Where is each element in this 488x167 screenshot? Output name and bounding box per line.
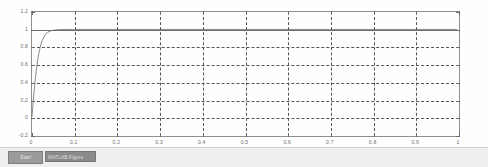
taskbar-item-figure[interactable]: MATLAB Figure	[45, 151, 96, 162]
plot-area	[31, 11, 460, 137]
x-axis-tick	[203, 11, 204, 15]
x-axis-tick	[246, 11, 247, 15]
x-axis-tick-label: 0.3	[155, 139, 163, 145]
y-axis-tick	[31, 101, 35, 102]
y-axis-tick-label: 0.4	[20, 79, 28, 85]
x-axis-tick	[160, 11, 161, 15]
x-axis-tick	[160, 133, 161, 137]
x-axis-tick	[246, 133, 247, 137]
y-axis-tick	[31, 83, 35, 84]
y-axis-tick-label: 0.2	[20, 97, 28, 103]
x-axis-tick-label: 0.1	[70, 139, 78, 145]
y-axis-tick-label: 0	[25, 114, 28, 120]
x-axis-tick-label: 0.5	[241, 139, 249, 145]
x-axis-tick	[203, 133, 204, 137]
y-axis-tick-label: 1	[25, 26, 28, 32]
x-axis-tick-label: 0.2	[113, 139, 121, 145]
x-axis-tick	[416, 11, 417, 15]
step-response-curve	[32, 12, 459, 136]
taskbar: Start MATLAB Figure	[0, 147, 488, 167]
x-axis-tick	[288, 11, 289, 15]
y-axis-tick	[31, 47, 35, 48]
x-axis-tick	[288, 133, 289, 137]
x-axis-tick	[416, 133, 417, 137]
y-axis-tick	[31, 30, 35, 31]
x-axis-tick	[331, 11, 332, 15]
y-axis-tick	[456, 118, 460, 119]
x-axis-tick	[117, 11, 118, 15]
x-axis-tick-label: 0.9	[412, 139, 420, 145]
y-axis-tick-label: 0.8	[20, 43, 28, 49]
x-axis-tick	[75, 133, 76, 137]
y-axis-tick-label: -0.2	[19, 132, 28, 138]
figure-window: -0.200.20.40.60.811.200.10.20.30.40.50.6…	[0, 0, 488, 145]
x-axis-tick-label: 0	[30, 139, 33, 145]
x-axis-tick-label: 0.4	[198, 139, 206, 145]
start-button[interactable]: Start	[8, 151, 43, 164]
y-axis-tick-label: 1.2	[20, 8, 28, 14]
x-axis-tick	[331, 133, 332, 137]
y-axis-tick	[456, 47, 460, 48]
x-axis-tick-label: 0.7	[326, 139, 334, 145]
x-axis-tick-label: 1	[457, 139, 460, 145]
y-axis-tick	[456, 101, 460, 102]
x-axis-tick	[32, 11, 33, 15]
y-axis-tick-label: 0.6	[20, 61, 28, 67]
x-axis-tick-label: 0.6	[283, 139, 291, 145]
desktop-screen: -0.200.20.40.60.811.200.10.20.30.40.50.6…	[0, 0, 488, 167]
y-axis-tick	[456, 83, 460, 84]
x-axis-tick	[117, 133, 118, 137]
y-axis-tick	[31, 118, 35, 119]
x-axis-tick-label: 0.8	[369, 139, 377, 145]
y-axis-tick	[456, 30, 460, 31]
x-axis-tick	[374, 11, 375, 15]
y-axis-tick	[31, 65, 35, 66]
x-axis-tick	[459, 133, 460, 137]
x-axis-tick	[32, 133, 33, 137]
x-axis-tick	[459, 11, 460, 15]
y-axis-tick	[456, 65, 460, 66]
x-axis-tick	[374, 133, 375, 137]
x-axis-tick	[75, 11, 76, 15]
